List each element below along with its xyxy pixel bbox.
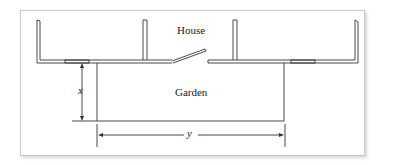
- right-inner-wall: [233, 20, 237, 60]
- x-dimension-line: [72, 65, 97, 121]
- x-arrow-top: [80, 63, 84, 68]
- house-label: House: [177, 24, 205, 36]
- left-wall: [37, 20, 172, 63]
- y-label: y: [187, 127, 192, 139]
- y-arrow-left: [98, 133, 103, 137]
- y-arrow-right: [279, 133, 284, 137]
- garden-label: Garden: [175, 86, 207, 98]
- left-inner-wall: [143, 20, 147, 60]
- right-floor: [208, 60, 358, 63]
- x-label: x: [78, 84, 83, 96]
- x-arrow-bottom: [80, 116, 84, 121]
- right-wall: [355, 20, 358, 63]
- door: [172, 49, 206, 63]
